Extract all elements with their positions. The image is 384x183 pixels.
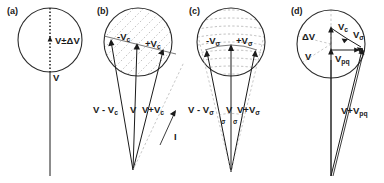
panel-c-label-v-plus-v-sigma: V+Vσ [237, 104, 260, 116]
panel-b-label-minus-vc: -Vc [117, 31, 131, 43]
panel-b-current-guide [133, 62, 184, 170]
panel-b: (b) [84, 0, 198, 170]
panel-d-label-v-plus-vpq: V+Vpq [341, 105, 368, 118]
panel-a: (a) V±ΔV V [7, 6, 82, 176]
panel-d-label: (d) [291, 6, 303, 16]
panel-c-label-minus-v-sigma: -Vσ [206, 35, 221, 47]
panel-c-label-v: V [226, 104, 233, 115]
panel-b-chord [104, 36, 176, 54]
panel-b-label-v-minus-vc: V - Vc [93, 104, 118, 116]
panel-b-label-v: V [130, 104, 137, 115]
panel-b-label-plus-vc: +Vc [145, 38, 161, 50]
panel-c: (c) [188, 6, 269, 172]
panel-d-label-vpq: Vpq [335, 53, 350, 66]
panel-b-label-current-i: I [174, 131, 177, 142]
panel-c-label-plus-v-sigma: +Vσ [236, 35, 253, 47]
velocity-vector-figure: (a) V±ΔV V (b) [0, 0, 384, 183]
panel-b-label: (b) [97, 6, 109, 16]
panel-a-label: (a) [7, 6, 18, 16]
panel-c-label: (c) [189, 6, 200, 16]
panel-b-label-v-plus-vc: V+Vc [142, 104, 164, 116]
panel-a-label-v-delta: V±ΔV [55, 35, 80, 46]
panel-b-circle [104, 8, 172, 76]
panel-d-label-delta-v: ΔV [302, 31, 316, 42]
panel-c-label-v-minus-v-sigma: V - Vσ [188, 104, 214, 116]
panel-d-vector-vpq [331, 47, 360, 52]
panel-d: (d) [291, 6, 368, 176]
panel-a-label-v: V [53, 72, 60, 83]
panel-d-label-v: V [305, 51, 312, 62]
panel-c-angle-sigma-left: σ [221, 118, 226, 125]
panel-d-vector-v [328, 48, 334, 176]
panel-c-angle-sigma-right: σ [233, 118, 238, 125]
panel-d-label-vc: Vc [338, 21, 348, 33]
panel-a-arrowhead [48, 36, 53, 42]
